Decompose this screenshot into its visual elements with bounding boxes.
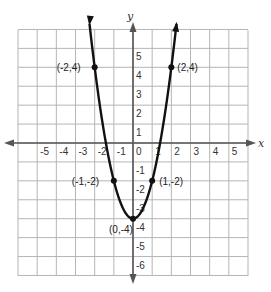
x-tick-label: 2 xyxy=(174,146,180,157)
y-tick-label: -1 xyxy=(136,165,145,176)
curve-right-arrow-icon xyxy=(172,22,179,32)
y-tick-label: 3 xyxy=(136,89,142,100)
parabola-chart: xy -5-4-3-2-101234554321-1-2-3-4-5-6 (-2… xyxy=(0,0,271,292)
x-tick-label: -1 xyxy=(117,146,126,157)
y-axis-down-arrow-icon xyxy=(130,274,137,284)
data-point xyxy=(92,64,98,70)
point-label: (1,-2) xyxy=(159,176,183,187)
x-axis-right-arrow-icon xyxy=(246,140,256,147)
y-tick-label: -6 xyxy=(136,260,145,271)
x-tick-label: -3 xyxy=(79,146,88,157)
data-point xyxy=(130,216,136,222)
data-point xyxy=(149,178,155,184)
data-point xyxy=(111,178,117,184)
y-tick-label: 4 xyxy=(136,70,142,81)
x-tick-label: 0 xyxy=(136,146,142,157)
x-tick-label: 4 xyxy=(213,146,219,157)
x-tick-label: 5 xyxy=(232,146,238,157)
y-axis-label: y xyxy=(126,10,134,23)
x-tick-label: -5 xyxy=(40,146,49,157)
point-label: (2,4) xyxy=(177,62,198,73)
y-tick-label: 5 xyxy=(136,51,142,62)
point-label: (0,-4) xyxy=(109,224,133,235)
x-tick-label: 3 xyxy=(194,146,200,157)
y-tick-label: -5 xyxy=(136,241,145,252)
point-label: (-2,4) xyxy=(57,62,81,73)
x-axis-label: x xyxy=(258,137,265,150)
y-tick-label: -4 xyxy=(136,222,145,233)
x-axis-left-arrow-icon xyxy=(4,140,14,147)
data-point xyxy=(168,64,174,70)
y-axis-up-arrow-icon xyxy=(130,22,137,32)
y-tick-label: 1 xyxy=(136,127,142,138)
y-tick-label: -2 xyxy=(136,184,145,195)
y-tick-label: 2 xyxy=(136,108,142,119)
x-tick-label: -4 xyxy=(59,146,68,157)
point-label: (-1,-2) xyxy=(72,176,99,187)
